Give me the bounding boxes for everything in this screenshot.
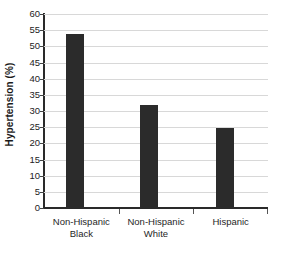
y-axis-tick-label: 15 xyxy=(20,155,40,165)
y-axis-tick-label: 10 xyxy=(20,171,40,181)
y-axis-tick xyxy=(40,143,44,144)
y-axis-tick xyxy=(40,95,44,96)
y-axis-tick-label: 45 xyxy=(20,58,40,68)
category-label: Non-HispanicBlack xyxy=(44,216,119,239)
category-label-line1: Hispanic xyxy=(212,216,248,227)
y-axis-tick xyxy=(40,127,44,128)
y-axis-tick-label: 35 xyxy=(20,90,40,100)
y-axis-tick xyxy=(40,160,44,161)
y-axis-tick-label: 30 xyxy=(20,106,40,116)
y-axis-tick-label: 5 xyxy=(20,187,40,197)
category-label: Non-HispanicWhite xyxy=(119,216,194,239)
category-divider xyxy=(119,209,120,214)
y-axis-title: Hypertension (%) xyxy=(2,0,18,208)
y-axis-tick-label: 55 xyxy=(20,25,40,35)
y-axis-tick xyxy=(40,79,44,80)
gridline xyxy=(44,30,268,31)
bar xyxy=(66,34,84,208)
y-axis-title-text: Hypertension (%) xyxy=(5,62,16,146)
bar xyxy=(216,128,234,208)
y-axis-tick-label: 20 xyxy=(20,139,40,149)
category-divider xyxy=(193,209,194,214)
y-axis-tick-label: 60 xyxy=(20,9,40,19)
y-axis-tick-label: 40 xyxy=(20,74,40,84)
category-label-line1: Non-Hispanic xyxy=(53,216,110,227)
y-axis-tick-label: 50 xyxy=(20,42,40,52)
category-label: Hispanic xyxy=(193,216,268,228)
category-label-line1: Non-Hispanic xyxy=(127,216,184,227)
y-axis-tick xyxy=(40,176,44,177)
category-label-line2: Black xyxy=(44,228,119,240)
y-axis-tick-label: 0 xyxy=(20,203,40,213)
y-axis-tick xyxy=(40,46,44,47)
y-axis-tick-label: 25 xyxy=(20,122,40,132)
y-axis-tick-labels: 051015202530354045505560 xyxy=(18,0,40,253)
bar xyxy=(140,105,158,208)
category-label-line2: White xyxy=(119,228,194,240)
y-axis-tick xyxy=(40,30,44,31)
y-axis-tick xyxy=(40,14,44,15)
gridline xyxy=(44,14,268,15)
plot-area xyxy=(44,14,268,208)
y-axis-tick xyxy=(40,208,44,209)
x-axis-end-tick xyxy=(267,209,268,214)
y-axis-tick xyxy=(40,192,44,193)
y-axis-tick xyxy=(40,111,44,112)
bar-chart: Hypertension (%) 05101520253035404550556… xyxy=(0,0,284,253)
y-axis-tick xyxy=(40,63,44,64)
